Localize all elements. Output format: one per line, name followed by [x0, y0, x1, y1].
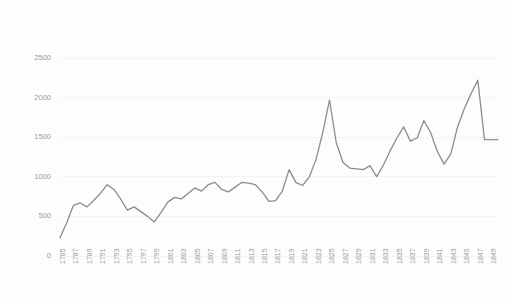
x-axis-tick-label: 1787 [72, 248, 79, 264]
x-axis-tick-label: 1811 [234, 249, 241, 264]
x-axis-tick-label: 1827 [342, 248, 349, 264]
x-axis-tick-label: 1805 [194, 248, 201, 264]
x-axis-tick-label: 1789 [86, 248, 93, 264]
x-axis-tick-label: 1819 [288, 248, 295, 264]
x-axis-tick-label: 1841 [436, 248, 443, 264]
x-axis-tick-label: 1799 [153, 248, 160, 264]
x-axis-tick-label: 1821 [301, 248, 308, 264]
y-axis-tick-label: 1000 [34, 172, 51, 181]
x-axis-tick-label: 1837 [409, 248, 416, 264]
x-axis-tick-label: 1797 [140, 248, 147, 264]
x-axis-tick-label: 1829 [355, 248, 362, 264]
x-axis-tick-label: 1831 [369, 248, 376, 264]
x-axis-tick-label: 1845 [463, 248, 470, 264]
y-axis-tick-labels: 05001000150020002500 [34, 53, 51, 260]
x-axis-tick-label: 1835 [396, 248, 403, 264]
x-axis-tick-label: 1807 [207, 248, 214, 264]
x-axis-tick-label: 1815 [261, 248, 268, 264]
x-axis-tick-label: 1801 [167, 248, 174, 264]
y-axis-tick-label: 2000 [34, 93, 51, 102]
line-chart-container: 05001000150020002500 1785178717891791179… [0, 0, 506, 304]
data-series-line [60, 80, 498, 238]
x-axis-tick-label: 1823 [315, 248, 322, 264]
x-axis-tick-label: 1843 [450, 248, 457, 264]
y-axis-tick-label: 2500 [34, 53, 51, 62]
x-axis-tick-label: 1847 [477, 248, 484, 264]
y-axis-tick-label: 500 [38, 211, 51, 220]
x-axis-tick-label: 1793 [113, 248, 120, 264]
x-axis-tick-label: 1813 [248, 248, 255, 264]
x-axis-tick-label: 1849 [490, 248, 497, 264]
y-axis-tick-label: 0 [47, 251, 51, 260]
chart-canvas: 05001000150020002500 1785178717891791179… [0, 0, 506, 304]
x-axis-tick-label: 1803 [180, 248, 187, 264]
x-axis-tick-label: 1795 [126, 248, 133, 264]
gridlines [60, 58, 498, 256]
x-axis-tick-label: 1791 [99, 248, 106, 264]
x-axis-tick-label: 1825 [328, 248, 335, 264]
x-axis-tick-label: 1809 [221, 248, 228, 264]
y-axis-tick-label: 1500 [34, 132, 51, 141]
x-axis-tick-label: 1817 [274, 248, 281, 264]
x-axis-tick-label: 1833 [382, 248, 389, 264]
x-axis-tick-label: 1839 [423, 248, 430, 264]
x-axis-tick-label: 1785 [59, 248, 66, 264]
